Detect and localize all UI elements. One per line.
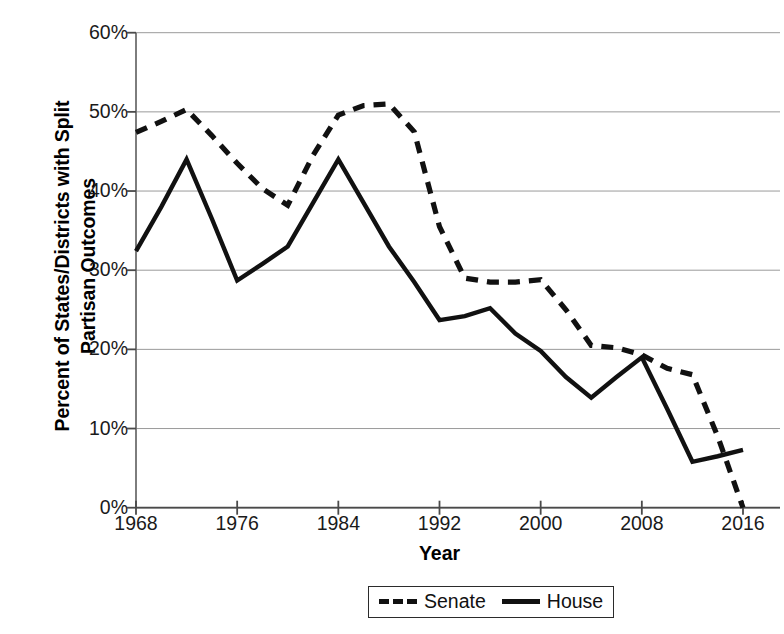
legend-label: House <box>547 589 603 613</box>
chart-container: Percent of States/Districts with Split P… <box>0 0 784 634</box>
x-tick-label-1984: 1984 <box>293 512 383 535</box>
legend-entry-house[interactable]: House <box>502 589 603 613</box>
data-series <box>136 104 743 508</box>
x-axis-title: Year <box>136 542 743 565</box>
series-line-house <box>136 159 743 461</box>
legend-entry-senate[interactable]: Senate <box>379 589 486 613</box>
legend-swatch-dashed-icon <box>379 599 417 604</box>
x-tick-label-1992: 1992 <box>395 512 485 535</box>
axis-tick-marks <box>127 33 743 515</box>
legend-label: Senate <box>424 589 486 613</box>
chart-legend: SenateHouse <box>368 586 614 618</box>
x-tick-label-2008: 2008 <box>597 512 687 535</box>
series-line-senate <box>136 104 743 508</box>
plot-area <box>0 0 784 634</box>
legend-swatch-solid-icon <box>502 599 540 604</box>
x-tick-label-2016: 2016 <box>698 512 784 535</box>
x-tick-label-1968: 1968 <box>91 512 181 535</box>
x-tick-label-2000: 2000 <box>496 512 586 535</box>
x-tick-label-1976: 1976 <box>192 512 282 535</box>
